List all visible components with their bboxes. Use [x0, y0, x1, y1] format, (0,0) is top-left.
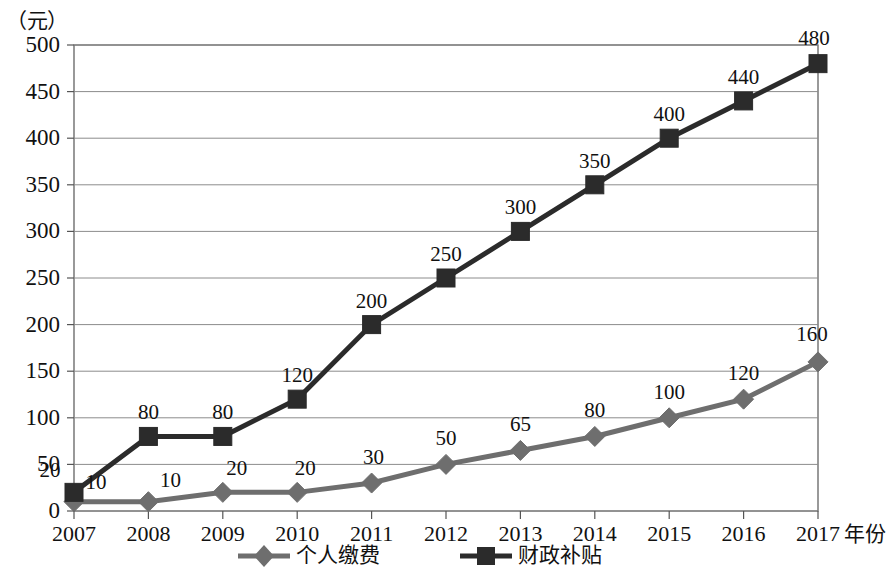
legend-item-personal-payment[interactable]: 个人缴费 [236, 545, 380, 567]
data-point-label: 120 [265, 365, 329, 386]
square-marker-icon [809, 55, 827, 73]
data-point-label: 50 [414, 428, 478, 449]
y-axis-tick-label: 200 [0, 313, 60, 336]
y-axis-tick-label: 0 [0, 499, 60, 522]
data-point-label: 200 [340, 291, 404, 312]
square-marker-icon [586, 176, 604, 194]
data-point-label: 20 [273, 458, 337, 479]
data-point-label: 30 [342, 447, 406, 468]
x-axis-title: 年份 [844, 524, 886, 545]
square-marker-icon [363, 316, 381, 334]
square-marker-icon [458, 545, 514, 567]
diamond-marker-icon [236, 545, 292, 567]
data-point-label: 20 [205, 458, 269, 479]
data-point-label: 65 [488, 414, 552, 435]
data-point-label: 20 [18, 460, 82, 481]
data-point-label: 300 [488, 197, 552, 218]
square-marker-icon [511, 222, 529, 240]
square-marker-icon [437, 269, 455, 287]
data-point-label: 120 [712, 363, 776, 384]
data-point-label: 250 [414, 244, 478, 265]
y-axis-tick-label: 250 [0, 266, 60, 289]
data-point-label: 160 [780, 324, 844, 345]
legend-label: 财政补贴 [518, 545, 602, 566]
y-axis-tick-label: 300 [0, 219, 60, 242]
square-marker-icon [735, 92, 753, 110]
data-point-label: 80 [116, 402, 180, 423]
y-axis-tick-label: 350 [0, 173, 60, 196]
data-point-label: 480 [782, 28, 846, 49]
square-marker-icon [214, 427, 232, 445]
data-point-label: 80 [191, 402, 255, 423]
legend-item-fiscal-subsidy[interactable]: 财政补贴 [458, 545, 602, 567]
diamond-marker-icon [254, 545, 274, 567]
square-marker-icon [288, 390, 306, 408]
legend-label: 个人缴费 [296, 545, 380, 566]
data-point-label: 100 [637, 382, 701, 403]
data-point-label: 10 [138, 470, 202, 491]
square-marker-icon [477, 547, 495, 565]
square-marker-icon [139, 427, 157, 445]
data-point-label: 80 [563, 400, 627, 421]
y-axis-tick-label: 100 [0, 406, 60, 429]
square-marker-icon [660, 129, 678, 147]
chart-legend: 个人缴费财政补贴 [0, 540, 838, 571]
y-axis-tick-label: 450 [0, 80, 60, 103]
y-axis-tick-label: 400 [0, 126, 60, 149]
y-axis-tick-label: 150 [0, 359, 60, 382]
data-point-label: 350 [563, 151, 627, 172]
data-point-label: 400 [637, 104, 701, 125]
y-axis-tick-label: 500 [0, 33, 60, 56]
data-point-label: 440 [712, 67, 776, 88]
